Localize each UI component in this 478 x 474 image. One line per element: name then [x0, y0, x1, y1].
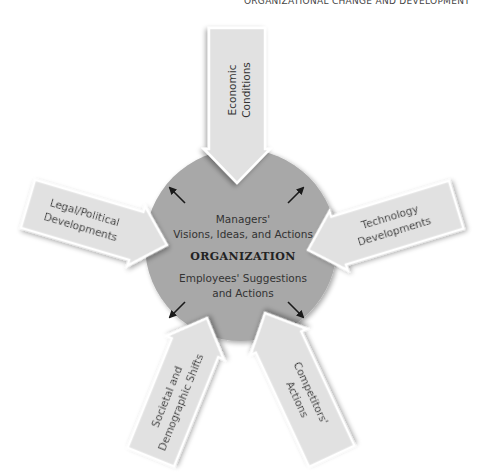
- managers-line2: Visions, Ideas, and Actions: [173, 228, 313, 240]
- employees-line2: and Actions: [212, 287, 273, 299]
- managers-line1: Managers': [216, 213, 270, 225]
- employees-line1: Employees' Suggestions: [179, 272, 307, 284]
- organization-title: ORGANIZATION: [190, 250, 296, 263]
- force-label-economic-line2: Conditions: [240, 62, 252, 118]
- force-label-economic-line1: Economic: [226, 64, 238, 115]
- organizational-change-diagram: Economic Conditions Legal/Political Deve…: [0, 0, 478, 474]
